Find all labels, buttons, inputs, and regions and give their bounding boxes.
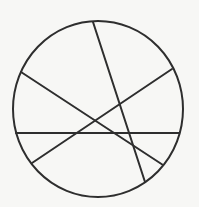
chord-diagram bbox=[0, 0, 199, 207]
circle bbox=[13, 21, 183, 197]
chord-steep bbox=[93, 22, 145, 182]
chord-descending bbox=[21, 72, 163, 165]
chords-group bbox=[16, 22, 179, 182]
chord-ascending bbox=[32, 69, 172, 163]
